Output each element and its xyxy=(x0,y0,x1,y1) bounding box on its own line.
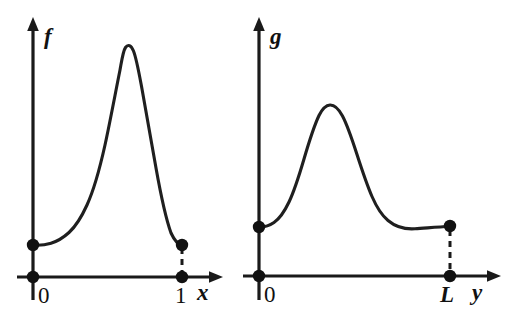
right-y-axis-label: g xyxy=(269,24,282,49)
right-right-tick-label: L xyxy=(439,282,454,307)
left-x-axis-arrowhead xyxy=(209,271,223,283)
right-x-axis-label: y xyxy=(469,280,483,305)
left-y-axis-label: f xyxy=(44,24,54,49)
left-panel-group: f x 0 1 xyxy=(17,17,223,308)
right-x-axis-arrowhead xyxy=(487,270,501,282)
right-origin-tick-label: 0 xyxy=(264,282,276,307)
left-x-axis-label: x xyxy=(196,280,209,305)
right-x-axis-endpoint-dot xyxy=(444,270,456,282)
left-y-axis-arrowhead xyxy=(27,17,39,31)
left-x-axis-endpoint-dot xyxy=(176,271,188,283)
left-curve-end-dot xyxy=(176,239,188,251)
left-origin-tick-label: 0 xyxy=(38,283,50,308)
figure-container: f x 0 1 g y 0 L xyxy=(0,0,523,330)
right-y-axis-arrowhead xyxy=(253,17,265,31)
left-right-tick-label: 1 xyxy=(175,283,187,308)
two-panel-function-plot: f x 0 1 g y 0 L xyxy=(0,0,523,330)
left-origin-dot xyxy=(27,271,39,283)
right-curve-start-dot xyxy=(253,221,265,233)
right-curve-g xyxy=(259,105,450,229)
right-origin-dot xyxy=(253,270,265,282)
left-curve-f xyxy=(33,45,182,245)
right-curve-end-dot xyxy=(444,220,456,232)
left-curve-start-dot xyxy=(27,239,39,251)
right-panel-group: g y 0 L xyxy=(243,17,501,307)
